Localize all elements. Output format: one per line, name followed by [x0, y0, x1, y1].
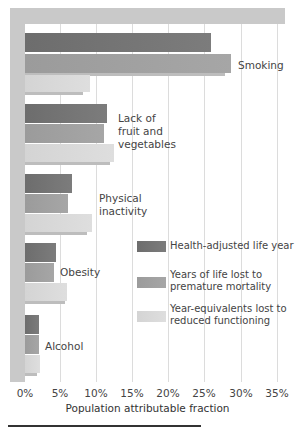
- category-label-smoking: Smoking: [238, 59, 284, 72]
- bar-alcohol-yld: [25, 355, 40, 373]
- bar-shadow: [25, 301, 65, 304]
- category-label-obesity: Obesity: [60, 266, 100, 279]
- legend-label-yll: Years of life lost to premature mortalit…: [170, 269, 271, 293]
- bar-inactivity-hly: [25, 174, 72, 193]
- bar-alcohol-hly: [25, 315, 39, 334]
- chart-frame-top: [10, 8, 285, 24]
- x-tick-30: 30%: [229, 387, 252, 399]
- legend-label-hly: Health-adjusted life year: [170, 240, 294, 252]
- legend-item-yll: Years of life lost to premature mortalit…: [137, 272, 295, 305]
- legend-swatch-light: [137, 311, 166, 322]
- bar-obesity-yld: [25, 283, 67, 301]
- bar-fruit-yll: [25, 124, 104, 143]
- bar-fruit-yld: [25, 144, 114, 162]
- x-tick-10: 10%: [84, 387, 107, 399]
- legend: Health-adjusted life year Years of life …: [137, 240, 295, 337]
- x-tick-20: 20%: [156, 387, 179, 399]
- bar-smoking-yll: [25, 54, 231, 73]
- bar-shadow: [25, 232, 87, 235]
- bar-inactivity-yll: [25, 194, 68, 213]
- category-label-fruit: Lack of fruit and vegetables: [118, 112, 176, 151]
- category-label-inactivity: Physical inactivity: [99, 192, 147, 218]
- gridline-10: [96, 24, 97, 382]
- bar-smoking-hly: [25, 33, 211, 52]
- x-tick-0: 0%: [17, 387, 34, 399]
- chart-frame-left: [10, 8, 25, 382]
- x-tick-35: 35%: [265, 387, 288, 399]
- bar-fruit-hly: [25, 104, 107, 123]
- bar-smoking-yld: [25, 75, 90, 92]
- x-tick-25: 25%: [192, 387, 215, 399]
- bar-inactivity-yld: [25, 214, 92, 232]
- x-tick-5: 5%: [52, 387, 69, 399]
- bar-obesity-yll: [25, 263, 54, 282]
- legend-swatch-medium: [137, 277, 166, 288]
- bar-alcohol-yll: [25, 335, 39, 354]
- legend-label-yld: Year-equivalents lost to reduced functio…: [170, 303, 287, 327]
- bottom-rule: [8, 425, 201, 427]
- category-label-alcohol: Alcohol: [45, 340, 83, 353]
- bar-shadow: [25, 373, 37, 376]
- bar-shadow: [25, 162, 110, 165]
- legend-item-yld: Year-equivalents lost to reduced functio…: [137, 305, 295, 337]
- x-tick-15: 15%: [120, 387, 143, 399]
- legend-item-hly: Health-adjusted life year: [137, 240, 295, 272]
- bar-shadow: [25, 92, 83, 95]
- legend-swatch-dark: [137, 241, 166, 252]
- x-axis-title: Population attributable fraction: [0, 402, 295, 414]
- bar-obesity-hly: [25, 243, 56, 262]
